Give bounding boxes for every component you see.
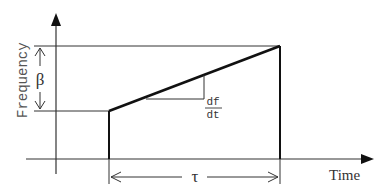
slope-numerator: df xyxy=(206,96,219,108)
tau-label: τ xyxy=(192,167,199,186)
y-axis xyxy=(51,13,61,174)
chirp-pulse xyxy=(109,46,280,159)
x-axis-label: Time xyxy=(329,167,360,183)
slope-label: df dt xyxy=(205,96,222,121)
x-axis-arrow-icon xyxy=(361,154,374,164)
y-axis-label: Frequency xyxy=(15,42,31,118)
beta-label: β xyxy=(36,70,45,89)
x-axis xyxy=(26,154,374,164)
y-axis-arrow-icon xyxy=(51,13,61,26)
slope-denominator: dt xyxy=(206,109,219,121)
chirp-diagram: Frequency β τ Time df dt xyxy=(0,0,388,195)
